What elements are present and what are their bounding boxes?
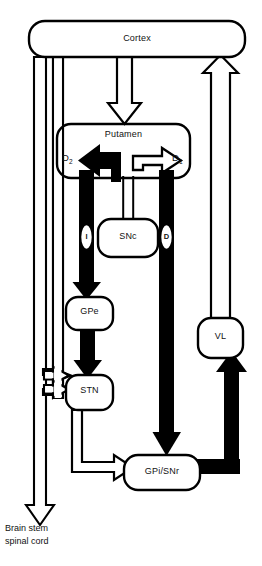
cortex-to-brainstem-arrow	[26, 57, 54, 525]
node-stn	[66, 375, 113, 410]
node-cortex	[29, 21, 245, 57]
d2-letter: D	[62, 152, 69, 163]
d1-subscript: 1	[179, 158, 183, 165]
node-snc	[98, 219, 158, 257]
diagram-canvas: Cortex Putamen SNc GPe STN GPi/SNr VL D2…	[0, 0, 262, 566]
gpe-to-stn-arrow	[74, 328, 103, 379]
label-d1-receptor: D1	[172, 152, 183, 165]
d2-subscript: 2	[69, 158, 73, 165]
node-putamen	[57, 124, 190, 178]
node-vl	[198, 318, 243, 358]
gpisnr-to-vl-arrow	[190, 351, 247, 474]
label-brainstem-spinal-cord: Brain stem spinal cord	[5, 522, 49, 547]
brainstem-line-2: spinal cord	[5, 535, 49, 548]
vl-to-cortex-arrow	[203, 55, 238, 318]
node-gpe	[66, 297, 113, 330]
direct-pathway-putamen-to-gpisnr	[153, 170, 182, 456]
cortex-to-stn-arrow	[43, 57, 71, 398]
snc-to-putamen-connector	[122, 175, 134, 221]
cortex-to-putamen-arrow	[108, 57, 141, 124]
label-d2-receptor: D2	[62, 152, 73, 165]
node-gpi-snr	[124, 455, 200, 490]
label-direct-pathway: D	[159, 232, 174, 241]
brainstem-line-1: Brain stem	[5, 522, 49, 535]
basal-ganglia-circuit-svg	[0, 0, 262, 566]
label-indirect-pathway: I	[79, 232, 94, 241]
d1-letter: D	[172, 152, 179, 163]
